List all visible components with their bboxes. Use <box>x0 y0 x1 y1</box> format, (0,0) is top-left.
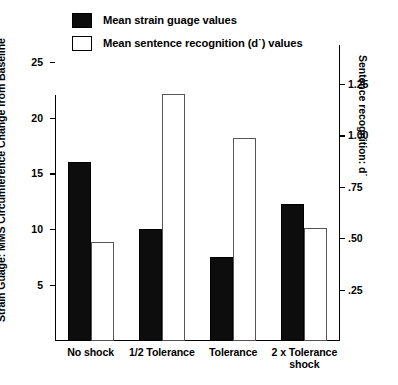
y-axis-right-tick-label: .75 <box>348 182 363 193</box>
y-axis-right-tick-label: 1.00 <box>348 130 368 141</box>
legend-swatch-filled-icon <box>72 13 92 28</box>
plot-area: 252015105 1.251.00.75.50.25 No shock1/2 … <box>55 45 340 341</box>
y-axis-left-tick-mark <box>50 285 55 286</box>
bar-strain-guage <box>281 204 304 341</box>
bar-sentence-recognition <box>304 228 327 341</box>
y-axis-left-tick-label: 20 <box>31 112 43 123</box>
y-axis-left-tick-label: 10 <box>31 224 43 235</box>
y-axis-right-tick-mark <box>340 187 345 188</box>
y-axis-left-tick-label: 25 <box>31 57 43 68</box>
bar-sentence-recognition <box>162 94 185 341</box>
y-axis-right-spine <box>339 45 340 341</box>
y-axis-right-tick-mark <box>340 135 345 136</box>
y-axis-left-title: Strain Guage: MMS Circumference Change f… <box>0 72 7 322</box>
bar-strain-guage <box>139 229 162 341</box>
x-axis-category-label-line1: 2 x Tolerance <box>259 347 349 359</box>
y-axis-left-tick-label: 5 <box>37 280 43 291</box>
y-axis-right-tick-label: .25 <box>348 284 363 295</box>
bar-sentence-recognition <box>91 242 114 341</box>
y-axis-left-tick-mark <box>50 118 55 119</box>
x-axis-category-label: 2 x Toleranceshock <box>259 347 349 370</box>
y-axis-right-tick-mark <box>340 290 345 291</box>
y-axis-right-tick-label: 1.25 <box>348 79 368 90</box>
y-axis-left-tick-mark <box>50 229 55 230</box>
x-axis-category-label-line2: shock <box>259 359 349 371</box>
bar-strain-guage <box>68 162 91 341</box>
y-axis-left-spine <box>55 95 56 341</box>
y-axis-left-tick-label: 15 <box>31 168 43 179</box>
bar-chart-figure: Mean strain guage values Mean sentence r… <box>0 0 398 385</box>
y-axis-right-tick-label: .50 <box>348 233 363 244</box>
y-axis-left-tick-mark <box>50 62 55 63</box>
legend-item-strain-guage: Mean strain guage values <box>72 10 362 31</box>
legend-label-strain-guage: Mean strain guage values <box>103 15 237 26</box>
y-axis-left-tick-mark <box>50 173 55 174</box>
bar-strain-guage <box>210 257 233 341</box>
y-axis-right-tick-mark <box>340 84 345 85</box>
y-axis-right-tick-mark <box>340 238 345 239</box>
bar-sentence-recognition <box>233 138 256 342</box>
